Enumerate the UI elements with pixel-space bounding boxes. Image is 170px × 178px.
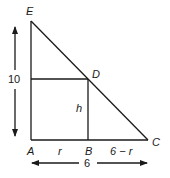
- dimension-label-horizontal: 6: [84, 157, 90, 169]
- segment-label-h: h: [76, 102, 82, 114]
- segment-label-BC: 6 − r: [110, 145, 134, 157]
- segment-label-AB: r: [58, 145, 63, 157]
- point-label-A: A: [26, 145, 34, 157]
- point-label-D: D: [92, 68, 100, 80]
- point-label-E: E: [26, 5, 34, 17]
- point-label-C: C: [152, 136, 160, 148]
- dimension-label-vertical: 10: [8, 73, 20, 85]
- geometry-diagram: E A B C D r 6 − r h 10 6: [0, 0, 170, 178]
- hypotenuse-EC: [31, 21, 148, 140]
- point-label-B: B: [85, 145, 92, 157]
